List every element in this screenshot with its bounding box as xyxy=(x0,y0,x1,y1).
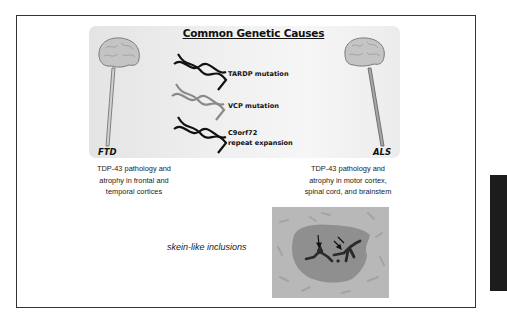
gene-label-line: TARDP mutation xyxy=(228,70,289,78)
gene-label-line: repeat expansion xyxy=(228,139,293,149)
caption-line: temporal cortices xyxy=(82,186,186,198)
figure-title: Common Genetic Causes xyxy=(0,27,507,39)
als-brain-icon xyxy=(340,34,390,152)
gene-label-tardp: TARDP mutation xyxy=(228,70,289,80)
gene-label-vcp: VCP mutation xyxy=(228,102,279,112)
gene-label-line: VCP mutation xyxy=(228,102,279,110)
gene-label-c9orf72: C9orf72 repeat expansion xyxy=(228,129,293,148)
caption-line: TDP-43 pathology and xyxy=(292,163,404,175)
edge-dark-strip xyxy=(490,175,507,291)
caption-line: spinal cord, and brainstem xyxy=(292,186,404,198)
caption-line: atrophy in motor cortex, xyxy=(292,175,404,187)
ftd-label: FTD xyxy=(98,147,117,157)
micrograph-illustration xyxy=(272,207,389,298)
dna-helix-icon xyxy=(172,115,230,155)
gene-label-line: C9orf72 xyxy=(228,129,293,139)
ftd-caption: TDP-43 pathology and atrophy in frontal … xyxy=(82,163,186,198)
micrograph-image xyxy=(272,207,389,298)
skein-inclusions-label: skein-like inclusions xyxy=(167,242,247,252)
caption-line: atrophy in frontal and xyxy=(82,175,186,187)
als-label: ALS xyxy=(373,147,391,157)
als-caption: TDP-43 pathology and atrophy in motor co… xyxy=(292,163,404,198)
caption-line: TDP-43 pathology and xyxy=(82,163,186,175)
ftd-brain-icon xyxy=(96,34,146,152)
